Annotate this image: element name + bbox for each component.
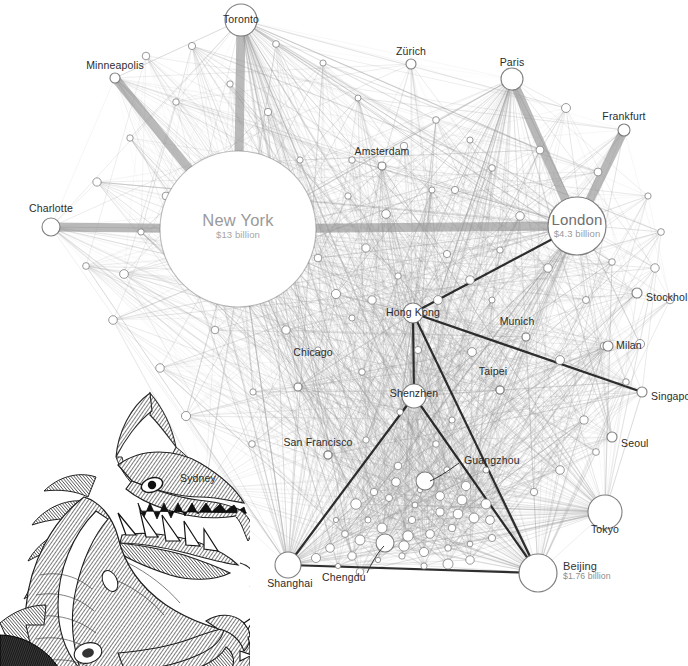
node-circle-chicago[interactable] bbox=[294, 383, 302, 391]
node-circle-beijing[interactable] bbox=[519, 554, 557, 592]
node-label-beijing[interactable]: Beijing$1.76 billion bbox=[563, 560, 611, 582]
node-circle-taipei[interactable] bbox=[496, 386, 504, 394]
node-circle-milan[interactable] bbox=[603, 341, 613, 351]
node-name-sydney: Sydney bbox=[180, 472, 216, 484]
node-circle-stockholm[interactable] bbox=[632, 288, 642, 298]
node-name-zurich: Zürich bbox=[396, 45, 426, 57]
node-name-guangzhou: Guangzhou bbox=[464, 454, 520, 466]
node-circle-singapore[interactable] bbox=[637, 387, 647, 397]
node-name-hong-kong: Hong Kong bbox=[386, 306, 440, 318]
node-name-stockholm: Stockholm bbox=[646, 291, 688, 303]
node-circle-san-francisco[interactable] bbox=[324, 451, 332, 459]
node-circle-amsterdam[interactable] bbox=[378, 162, 386, 170]
node-label-singapore[interactable]: Singapore bbox=[651, 391, 688, 403]
node-value-london: $4.3 billion bbox=[552, 229, 603, 240]
node-name-new-york: New York bbox=[202, 211, 273, 229]
node-label-milan[interactable]: Milan bbox=[616, 340, 642, 352]
node-name-singapore: Singapore bbox=[651, 390, 688, 402]
node-label-minneapolis[interactable]: Minneapolis bbox=[86, 60, 144, 72]
node-label-munich[interactable]: Munich bbox=[500, 316, 535, 328]
network-diagram-canvas: New York$13 billionLondon$4.3 billionBei… bbox=[0, 0, 688, 666]
node-circle-minneapolis[interactable] bbox=[110, 73, 120, 83]
edge-layer-faint bbox=[51, 20, 670, 573]
node-label-paris[interactable]: Paris bbox=[500, 57, 525, 69]
node-name-charlotte: Charlotte bbox=[29, 202, 73, 214]
node-label-san-francisco[interactable]: San Francisco bbox=[283, 437, 352, 449]
node-name-shanghai: Shanghai bbox=[267, 577, 313, 589]
node-label-london[interactable]: London$4.3 billion bbox=[552, 212, 603, 239]
node-label-frankfurt[interactable]: Frankfurt bbox=[602, 111, 645, 123]
node-name-milan: Milan bbox=[616, 339, 642, 351]
node-circle-seoul[interactable] bbox=[607, 432, 617, 442]
node-label-stockholm[interactable]: Stockholm bbox=[646, 292, 688, 304]
node-name-paris: Paris bbox=[500, 56, 525, 68]
node-circle-charlotte[interactable] bbox=[42, 218, 60, 236]
node-value-beijing: $1.76 billion bbox=[563, 572, 611, 582]
node-name-london: London bbox=[552, 211, 603, 228]
node-circle-munich[interactable] bbox=[522, 333, 530, 341]
node-label-new-york[interactable]: New York$13 billion bbox=[202, 211, 273, 241]
node-name-minneapolis: Minneapolis bbox=[86, 59, 144, 71]
node-name-seoul: Seoul bbox=[621, 437, 649, 449]
node-circle-sydney[interactable] bbox=[199, 483, 211, 495]
node-name-frankfurt: Frankfurt bbox=[602, 110, 645, 122]
node-name-toronto: Toronto bbox=[223, 13, 259, 25]
node-label-seoul[interactable]: Seoul bbox=[621, 438, 649, 450]
node-name-san-francisco: San Francisco bbox=[283, 436, 352, 448]
node-name-beijing: Beijing bbox=[563, 560, 597, 572]
node-label-chicago[interactable]: Chicago bbox=[293, 347, 333, 359]
node-circle-frankfurt[interactable] bbox=[618, 124, 630, 136]
node-value-new-york: $13 billion bbox=[202, 230, 273, 241]
node-label-shenzhen[interactable]: Shenzhen bbox=[390, 388, 439, 400]
node-circle-shanghai[interactable] bbox=[275, 552, 301, 578]
node-label-chengdu[interactable]: Chengdu bbox=[322, 572, 366, 584]
node-circle-chengdu[interactable] bbox=[376, 534, 394, 552]
node-circle-paris[interactable] bbox=[501, 68, 523, 90]
node-label-zurich[interactable]: Zürich bbox=[396, 46, 426, 58]
node-name-taipei: Taipei bbox=[479, 365, 507, 377]
node-name-tokyo: Tokyo bbox=[591, 523, 619, 535]
node-name-chengdu: Chengdu bbox=[322, 571, 366, 583]
node-circle-guangzhou[interactable] bbox=[416, 472, 434, 490]
node-circle-zurich[interactable] bbox=[406, 59, 416, 69]
node-label-sydney[interactable]: Sydney bbox=[180, 473, 216, 485]
node-name-munich: Munich bbox=[500, 315, 535, 327]
node-label-amsterdam[interactable]: Amsterdam bbox=[354, 146, 409, 158]
node-label-taipei[interactable]: Taipei bbox=[479, 366, 507, 378]
node-label-shanghai[interactable]: Shanghai bbox=[267, 578, 313, 590]
node-name-shenzhen: Shenzhen bbox=[390, 387, 439, 399]
node-name-amsterdam: Amsterdam bbox=[354, 145, 409, 157]
node-name-chicago: Chicago bbox=[293, 346, 333, 358]
node-label-guangzhou[interactable]: Guangzhou bbox=[464, 455, 520, 467]
node-label-charlotte[interactable]: Charlotte bbox=[29, 203, 73, 215]
node-label-tokyo[interactable]: Tokyo bbox=[591, 524, 619, 536]
node-label-hong-kong[interactable]: Hong Kong bbox=[386, 307, 440, 319]
node-label-toronto[interactable]: Toronto bbox=[223, 14, 259, 26]
